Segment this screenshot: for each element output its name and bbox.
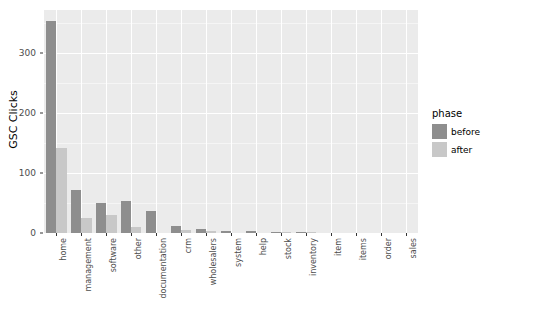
legend-item-label: before xyxy=(451,127,480,137)
legend-item: after xyxy=(432,141,552,158)
gridline-vertical xyxy=(331,10,332,233)
x-axis-tick-mark xyxy=(381,233,382,236)
x-axis-tick-mark xyxy=(356,233,357,236)
x-axis-tick-label: crm xyxy=(184,238,193,253)
gridline-vertical xyxy=(406,10,407,233)
bar xyxy=(121,201,131,233)
y-axis-tick-label: 100 xyxy=(19,168,36,178)
gridline-vertical xyxy=(206,10,207,233)
plot-panel xyxy=(44,10,418,233)
bar xyxy=(146,211,156,233)
gridline-vertical xyxy=(306,10,307,233)
gridline-vertical xyxy=(181,10,182,233)
x-axis-tick-label: help xyxy=(259,238,268,255)
gridline-vertical xyxy=(131,10,132,233)
x-axis-tick-mark xyxy=(206,233,207,236)
x-axis-tick-mark xyxy=(306,233,307,236)
x-axis-tick-mark xyxy=(156,233,157,236)
x-axis-tick-label: inventory xyxy=(309,238,318,276)
gridline-vertical xyxy=(356,10,357,233)
x-axis-tick-label: system xyxy=(234,238,243,267)
legend-color-swatch xyxy=(432,142,447,157)
x-axis-tick-label: wholesalers xyxy=(209,238,218,285)
y-axis-tick-label: 200 xyxy=(19,108,36,118)
legend-items: beforeafter xyxy=(432,123,552,158)
x-axis-tick-mark xyxy=(406,233,407,236)
x-axis-tick-label: management xyxy=(84,238,93,292)
bar xyxy=(56,148,66,233)
x-axis-tick-mark xyxy=(331,233,332,236)
legend-item: before xyxy=(432,123,552,140)
x-axis-tick-label: item xyxy=(334,238,343,256)
x-axis-tick-mark xyxy=(281,233,282,236)
x-axis-tick-label: stock xyxy=(284,238,293,259)
x-axis-tick-mark xyxy=(181,233,182,236)
bar xyxy=(71,190,81,233)
y-axis-tick-mark xyxy=(40,113,43,114)
y-axis-tick-mark xyxy=(40,173,43,174)
y-axis-tick-label: 0 xyxy=(30,228,36,238)
legend-item-label: after xyxy=(451,145,472,155)
bar xyxy=(81,218,91,233)
x-axis-tick-mark xyxy=(231,233,232,236)
legend: phase beforeafter xyxy=(432,108,552,159)
gridline-vertical xyxy=(231,10,232,233)
y-axis-tick-mark xyxy=(40,53,43,54)
x-axis-tick-mark xyxy=(256,233,257,236)
legend-title: phase xyxy=(432,108,552,119)
gridline-vertical xyxy=(81,10,82,233)
gridline-vertical xyxy=(256,10,257,233)
gridline-vertical xyxy=(106,10,107,233)
y-axis: 0100200300 xyxy=(0,0,42,319)
bar xyxy=(46,21,56,233)
chart-root: GSC Clicks 0100200300 homemanagementsoft… xyxy=(0,0,557,319)
gridline-vertical xyxy=(156,10,157,233)
legend-color-swatch xyxy=(432,124,447,139)
x-axis-tick-label: sales xyxy=(409,238,418,258)
bar xyxy=(171,226,181,233)
y-axis-tick-label: 300 xyxy=(19,48,36,58)
x-axis-tick-label: items xyxy=(359,238,368,260)
x-axis-tick-label: documentation xyxy=(159,238,168,299)
x-axis-tick-mark xyxy=(106,233,107,236)
x-axis-tick-label: other xyxy=(134,238,143,259)
x-axis-tick-mark xyxy=(56,233,57,236)
gridline-vertical xyxy=(381,10,382,233)
bar xyxy=(106,215,116,233)
gridline-vertical xyxy=(281,10,282,233)
x-axis-tick-mark xyxy=(131,233,132,236)
bar xyxy=(96,203,106,233)
x-axis-tick-label: software xyxy=(109,238,118,272)
x-axis-tick-label: home xyxy=(59,238,68,261)
y-axis-tick-mark xyxy=(40,233,43,234)
x-axis-tick-label: order xyxy=(384,238,393,259)
x-axis: homemanagementsoftwareotherdocumentation… xyxy=(44,233,418,319)
x-axis-tick-mark xyxy=(81,233,82,236)
